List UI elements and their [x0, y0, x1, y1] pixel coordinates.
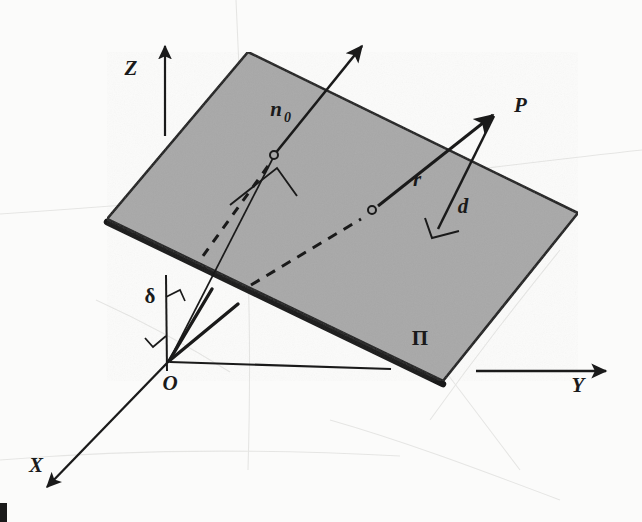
normal-vector-subscript: 0: [284, 110, 291, 125]
x-axis-label: X: [28, 453, 44, 477]
geometry-diagram: Π Z Y X O δ: [0, 0, 642, 522]
radius-vector-plane-intersection-point: [368, 206, 376, 214]
y-axis-label: Y: [572, 373, 587, 397]
distance-d-label: d: [458, 194, 469, 218]
normal-vector-label: n: [270, 97, 282, 121]
figure-root: Π Z Y X O δ: [0, 0, 642, 522]
scan-edge-artifact: [0, 503, 7, 522]
point-p-label: P: [513, 93, 527, 117]
radius-vector-label: r: [413, 167, 422, 191]
delta-angle-label: δ: [145, 284, 156, 308]
normal-foot-point: [270, 151, 278, 159]
z-axis-label: Z: [124, 56, 138, 80]
origin-label: O: [162, 371, 177, 395]
origin-vertical-construction-line: [166, 275, 167, 371]
plane-pi-label: Π: [412, 326, 428, 350]
